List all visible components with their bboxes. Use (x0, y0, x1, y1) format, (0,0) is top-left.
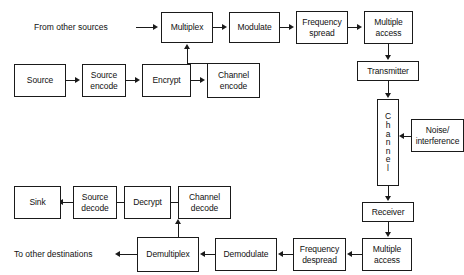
connector-multiple-access-rx-to-frequency-despread (352, 254, 362, 255)
block-source-encode[interactable]: Source encode (82, 64, 126, 97)
connector-demultiplex-to-channel-decode (178, 224, 179, 237)
arrowhead-channel-encode-to-multiplex (184, 44, 190, 49)
channel-letter-l: l (387, 164, 389, 173)
arrowhead-noise-to-channel (399, 133, 404, 139)
arrowhead-channel-to-receiver (385, 196, 391, 201)
block-demultiplex[interactable]: Demultiplex (137, 237, 199, 272)
connector-demultiplex-riser (178, 237, 179, 238)
block-channel-encode[interactable]: Channel encode (207, 63, 260, 98)
arrowhead-modulate-to-frequency-spread (289, 24, 294, 30)
block-receiver[interactable]: Receiver (362, 202, 414, 222)
block-frequency-despread[interactable]: Frequency despread (293, 238, 346, 271)
block-multiple-access-tx[interactable]: Multiple access (364, 11, 413, 44)
block-source-decode[interactable]: Source decode (73, 186, 117, 219)
arrowhead-demultiplex-to-destinations (115, 251, 120, 257)
arrowhead-multiple-access-tx-to-transmitter (385, 55, 391, 60)
arrowhead-receiver-to-multiple-access-rx (385, 232, 391, 237)
connector-noise-to-channel (404, 136, 411, 137)
label-from-other-sources: From other sources (34, 22, 108, 32)
block-multiplex[interactable]: Multiplex (161, 12, 213, 43)
connector-demultiplex-to-destinations (120, 254, 137, 255)
block-channel-decode[interactable]: Channel decode (178, 186, 231, 219)
arrowhead-frequency-despread-to-demodulate (278, 251, 283, 257)
arrowhead-transmitter-to-channel (385, 93, 391, 98)
block-noise-interference[interactable]: Noise/ interference (411, 119, 464, 152)
block-demodulate[interactable]: Demodulate (215, 238, 277, 271)
diagram-canvas: From other sources Multiplex Modulate Fr… (0, 0, 464, 275)
block-multiple-access-rx[interactable]: Multiple access (362, 238, 412, 271)
label-to-other-destinations: To other destinations (14, 249, 92, 259)
arrowhead-source-to-source-encode (75, 77, 80, 83)
connector-demodulate-to-demultiplex (205, 254, 215, 255)
arrowhead-sources-to-multiplex (153, 24, 158, 30)
block-channel[interactable]: C h a n n e l (377, 99, 399, 186)
block-modulate[interactable]: Modulate (229, 12, 280, 43)
arrowhead-demodulate-to-demultiplex (200, 251, 205, 257)
connector-sources-to-multiplex (136, 27, 153, 28)
arrowhead-multiplex-to-modulate (222, 24, 227, 30)
block-frequency-spread[interactable]: Frequency spread (296, 11, 348, 44)
arrowhead-source-encode-to-encrypt (135, 77, 140, 83)
arrowhead-demultiplex-to-channel-decode (175, 219, 181, 224)
connector-frequency-despread-to-demodulate (283, 254, 293, 255)
arrowhead-encrypt-to-channel-encode (200, 77, 205, 83)
block-encrypt[interactable]: Encrypt (142, 64, 191, 97)
connector-source-decode-to-sink (63, 202, 73, 203)
block-sink[interactable]: Sink (14, 186, 61, 219)
block-source[interactable]: Source (14, 64, 66, 97)
connector-channel-encode-riser (187, 63, 207, 64)
arrowhead-multiple-access-rx-to-frequency-despread (347, 251, 352, 257)
connector-channel-encode-to-multiplex (187, 49, 188, 63)
block-decrypt[interactable]: Decrypt (124, 186, 171, 219)
block-transmitter[interactable]: Transmitter (357, 61, 419, 81)
arrowhead-frequency-spread-to-multiple-access-tx (357, 24, 362, 30)
